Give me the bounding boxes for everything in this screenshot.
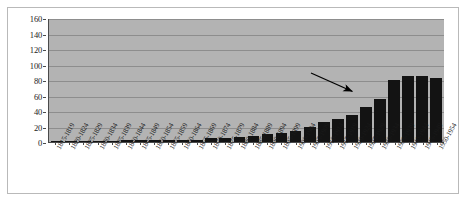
y-axis: 020406080100120140160: [8, 8, 46, 144]
y-axis-tick-mark: [43, 35, 46, 36]
y-axis-tick-mark: [43, 81, 46, 82]
y-axis-tick-label: 0: [38, 138, 42, 148]
y-axis-tick-mark: [43, 97, 46, 98]
y-axis-tick-label: 120: [30, 45, 42, 55]
y-axis-tick-label: 60: [34, 92, 42, 102]
y-axis-tick-mark: [43, 19, 46, 20]
x-axis: 1815-18191820-18241825-18291830-18341835…: [48, 145, 444, 203]
chart-frame: 020406080100120140160 1815-18191820-1824…: [7, 7, 459, 194]
y-axis-tick-mark: [43, 112, 46, 113]
y-axis-tick-mark: [43, 50, 46, 51]
y-axis-tick-label: 160: [30, 14, 42, 24]
y-axis-tick-label: 80: [34, 76, 42, 86]
y-axis-tick-label: 100: [30, 61, 42, 71]
y-axis-tick-mark: [43, 143, 46, 144]
y-axis-tick-label: 20: [34, 123, 42, 133]
y-axis-tick-label: 40: [34, 107, 42, 117]
y-axis-tick-mark: [43, 66, 46, 67]
y-axis-tick-mark: [43, 128, 46, 129]
y-axis-tick-label: 140: [30, 30, 42, 40]
